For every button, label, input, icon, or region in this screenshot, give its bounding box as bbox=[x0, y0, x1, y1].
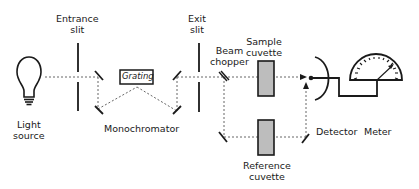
reference-mirror-right bbox=[302, 134, 309, 143]
sample-cuvette-label: Sample cuvette bbox=[246, 36, 282, 58]
light-source-label: Light source bbox=[13, 119, 45, 141]
beam-chopper-label-line1: Beam bbox=[210, 45, 249, 56]
beam-chopper-label: Beam chopper bbox=[210, 45, 249, 67]
entrance-slit-label-line1: Entrance bbox=[56, 13, 99, 24]
reference-cuvette-label: Reference cuvette bbox=[243, 160, 291, 182]
reference-cuvette bbox=[258, 120, 274, 155]
sample-cuvette-label-line2: cuvette bbox=[246, 47, 282, 58]
light-bulb-icon bbox=[17, 57, 41, 105]
entrance-slit-label-line2: slit bbox=[56, 24, 99, 35]
detector-label: Detector bbox=[316, 126, 357, 137]
exit-slit-label-line1: Exit bbox=[188, 13, 206, 24]
sample-cuvette-label-line1: Sample bbox=[246, 36, 282, 47]
beam-chopper-label-line2: chopper bbox=[210, 56, 249, 67]
exit-slit-label: Exit slit bbox=[188, 13, 206, 35]
meter-label: Meter bbox=[364, 126, 392, 137]
sample-cuvette bbox=[258, 61, 274, 96]
exit-slit-label-line2: slit bbox=[188, 24, 206, 35]
monochromator-label: Monochromator bbox=[104, 123, 179, 134]
beam-arrowheads bbox=[300, 74, 309, 89]
light-source-label-line2: source bbox=[13, 130, 45, 141]
light-source-label-line1: Light bbox=[13, 119, 45, 130]
beam-chopper bbox=[219, 71, 229, 81]
reference-cuvette-label-line1: Reference bbox=[243, 160, 291, 171]
grating-label: Grating bbox=[122, 71, 154, 81]
entrance-slit-label: Entrance slit bbox=[56, 13, 99, 35]
reference-cuvette-label-line2: cuvette bbox=[243, 171, 291, 182]
meter-gauge-icon bbox=[350, 54, 402, 80]
